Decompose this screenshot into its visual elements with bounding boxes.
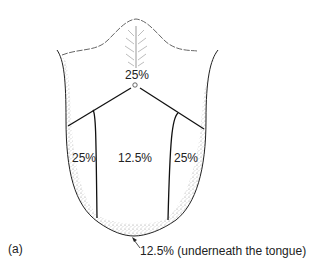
panel-label: (a) — [8, 242, 23, 256]
left-region-label: 25% — [72, 151, 96, 165]
center-region-label: 12.5% — [118, 151, 152, 165]
right-region-label: 25% — [174, 151, 198, 165]
underside-label: 12.5% (underneath the tongue) — [140, 244, 306, 258]
foramen-caecum — [133, 83, 137, 87]
arrow-icon — [132, 237, 140, 248]
median-sulcus — [125, 26, 147, 68]
right-terminal-line — [140, 88, 204, 129]
base-region-label: 25% — [125, 68, 149, 82]
left-terminal-line — [68, 88, 131, 126]
right-divider — [168, 113, 178, 220]
tongue-diagram: 25% 25% 12.5% 25% (a) 12.5% (underneath … — [0, 0, 311, 275]
